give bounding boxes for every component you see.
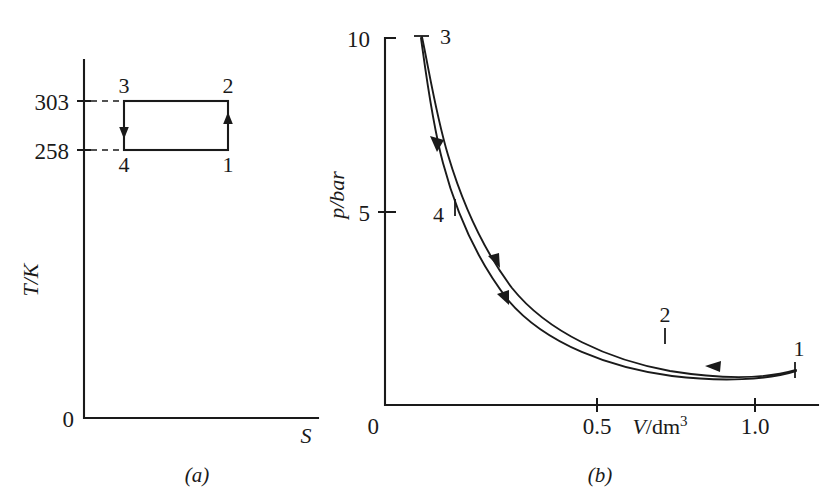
panel-b-state-label-2: 2 bbox=[660, 302, 671, 327]
panel-b-state-label-4: 4 bbox=[433, 202, 444, 227]
panel-b-ylabel-10: 10 bbox=[347, 27, 370, 52]
panel-b-x-axis-unit: /dm bbox=[646, 414, 680, 439]
panel-b-state-label-1: 1 bbox=[794, 336, 805, 361]
panel-b-arrow-near-3 bbox=[430, 136, 444, 152]
panel-b-y-axis-title: p/bar bbox=[324, 171, 349, 221]
panel-b-ylabel-5: 5 bbox=[359, 201, 371, 226]
panel-b-x-axis-title: V/dm3 bbox=[632, 413, 687, 439]
panel-b-pv-diagram: 3 4 2 1 10 5 0 0.5 1.0 p/bar V/dm3 (b) bbox=[0, 0, 824, 499]
panel-b-arrow-near-2 bbox=[705, 361, 721, 372]
panel-b-flow-arrows bbox=[430, 136, 721, 372]
panel-b-isotherm-upper-303K bbox=[422, 37, 796, 377]
panel-b-arrow-near-4-down bbox=[497, 290, 509, 305]
panel-b-state-label-3: 3 bbox=[440, 24, 451, 49]
panel-b-xlabel-0p5: 0.5 bbox=[583, 414, 612, 439]
panel-b-isotherm-lower-258K bbox=[421, 38, 796, 379]
panel-b-state-markers bbox=[414, 36, 795, 378]
panel-b-axis-lines bbox=[385, 38, 818, 405]
panel-b-x-axis-exponent: 3 bbox=[680, 413, 688, 429]
panel-b-origin-label: 0 bbox=[368, 414, 380, 439]
panel-b-caption: (b) bbox=[588, 463, 613, 487]
panel-b-xlabel-1p0: 1.0 bbox=[741, 414, 770, 439]
panel-b-axes bbox=[378, 38, 818, 412]
figure-root: 303 258 0 3 2 4 1 T/K S (a) bbox=[0, 0, 824, 499]
